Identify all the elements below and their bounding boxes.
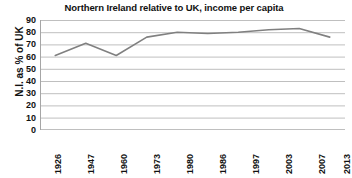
y-tick-label: 0 [16,126,36,135]
y-tick-label: 20 [16,101,36,110]
y-tick-label: 60 [16,53,36,62]
y-axis-tick-labels: 90 80 70 60 50 40 30 20 10 0 [14,20,36,130]
y-tick-label: 80 [16,28,36,37]
y-tick-label: 50 [16,65,36,74]
x-tick-label: 1960 [120,154,129,174]
x-axis-tick-labels: 1926 1947 1960 1973 1980 1986 1997 2003 … [40,132,345,178]
x-tick-label: 1973 [153,154,162,174]
x-tick-label: 1947 [87,154,96,174]
x-tick-label: 1926 [54,154,63,174]
x-tick-label: 2013 [343,154,352,174]
y-tick-label: 90 [16,16,36,25]
chart-title: Northern Ireland relative to UK, income … [0,2,348,14]
x-tick-label: 1997 [252,154,261,174]
x-tick-label: 2003 [285,154,294,174]
x-tick-label: 1980 [186,154,195,174]
plot-area [40,20,345,130]
x-tick-label: 1986 [219,154,228,174]
y-tick-label: 40 [16,77,36,86]
chart-svg [40,20,345,130]
y-tick-label: 70 [16,40,36,49]
y-tick-label: 30 [16,89,36,98]
x-tick-label: 2007 [318,154,327,174]
gridlines [40,21,345,130]
y-tick-label: 10 [16,114,36,123]
